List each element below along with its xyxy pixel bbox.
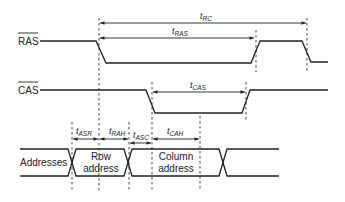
cas-signal: CAS bbox=[18, 82, 328, 113]
column-address-line1: Column bbox=[159, 151, 193, 162]
row-address-line2: address bbox=[83, 163, 119, 174]
t-rah-label: tRAH bbox=[109, 126, 126, 137]
t-ras-label: tRAS bbox=[172, 26, 189, 37]
t-cas-label: tCAS bbox=[190, 80, 207, 91]
t-asr-label: tASR bbox=[76, 126, 92, 137]
row-address-line1: Row bbox=[91, 151, 112, 162]
ras-label: RAS bbox=[18, 36, 39, 47]
timing-annotations: tRC tRAS tCAS tASR tRAH tASC tCAH bbox=[73, 11, 306, 143]
addresses-label: Addresses bbox=[20, 157, 67, 168]
t-asc-label: tASC bbox=[133, 130, 149, 141]
column-address-line2: address bbox=[158, 163, 194, 174]
cas-label: CAS bbox=[18, 85, 39, 96]
t-cah-label: tCAH bbox=[167, 126, 184, 137]
ras-signal: RAS bbox=[18, 33, 328, 63]
timing-diagram: RAS CAS Addresses Row address Column add… bbox=[0, 0, 345, 202]
address-bus: Addresses Row address Column address bbox=[20, 149, 279, 176]
t-rc-label: tRC bbox=[200, 11, 212, 22]
